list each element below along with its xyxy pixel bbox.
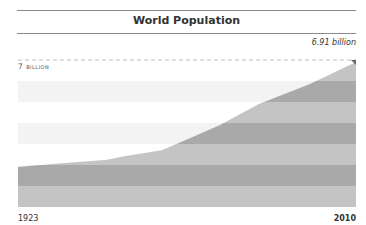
area-chart (0, 0, 366, 225)
reference-line-label: 7 billion (18, 62, 49, 71)
x-axis-end-label: 2010 (334, 214, 356, 223)
x-axis-start-label: 1923 (18, 214, 38, 223)
